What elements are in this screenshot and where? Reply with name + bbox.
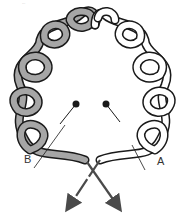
pin-right bbox=[103, 101, 121, 123]
label-a: A bbox=[157, 155, 164, 167]
knot-diagram bbox=[0, 0, 187, 224]
pin-left bbox=[60, 101, 80, 125]
crossing-arrows bbox=[70, 160, 117, 205]
white-strand bbox=[95, 11, 171, 160]
grey-strand bbox=[14, 11, 97, 160]
label-b: B bbox=[24, 153, 31, 165]
